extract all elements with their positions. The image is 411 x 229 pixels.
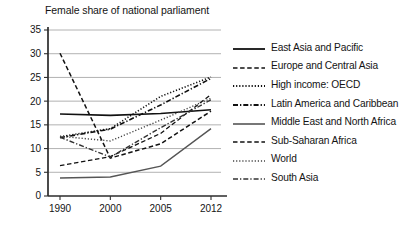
y-axis-tick-label: 10: [30, 143, 42, 154]
x-axis-tick-label: 2000: [99, 203, 122, 214]
legend-item[interactable]: World: [233, 150, 411, 169]
legend-item-label: Middle East and North Africa: [271, 116, 396, 127]
y-axis-tick-label: 0: [35, 190, 41, 201]
y-axis-tick-label: 35: [30, 24, 42, 35]
legend-item-label: Latin America and Caribbean: [271, 98, 398, 109]
chart-container: Female share of national parliament 0510…: [0, 0, 411, 229]
chart-series-line: [60, 78, 211, 137]
legend-item[interactable]: Latin America and Caribbean: [233, 94, 411, 113]
y-axis-tick-label: 5: [35, 167, 41, 178]
legend-item[interactable]: South Asia: [233, 168, 411, 187]
legend-item-label: South Asia: [271, 172, 318, 183]
legend-item[interactable]: High income: OECD: [233, 75, 411, 94]
legend-item[interactable]: Sub-Saharan Africa: [233, 131, 411, 150]
legend-item-label: Europe and Central Asia: [271, 60, 378, 71]
legend-line-swatch: [233, 153, 265, 165]
y-axis-tick-label: 20: [30, 96, 42, 107]
legend-item-label: High income: OECD: [271, 79, 360, 90]
legend-item-label: East Asia and Pacific: [271, 42, 363, 53]
legend-line-swatch: [233, 97, 265, 109]
x-axis-tick-label: 2012: [200, 203, 223, 214]
legend-item[interactable]: East Asia and Pacific: [233, 38, 411, 57]
legend-line-swatch: [233, 134, 265, 146]
y-axis-tick-label: 25: [30, 72, 42, 83]
x-axis-tick-label: 1990: [49, 203, 72, 214]
legend-item-label: Sub-Saharan Africa: [271, 135, 357, 146]
legend-line-swatch: [233, 41, 265, 53]
legend-item[interactable]: Middle East and North Africa: [233, 112, 411, 131]
legend-item-label: World: [271, 153, 297, 164]
chart-series-line: [60, 129, 211, 178]
y-axis-tick-label: 15: [30, 119, 42, 130]
chart-legend: East Asia and PacificEurope and Central …: [233, 38, 411, 187]
y-axis-tick-label: 30: [30, 48, 42, 59]
legend-line-swatch: [233, 60, 265, 72]
x-axis-tick-label: 2005: [150, 203, 173, 214]
legend-line-swatch: [233, 78, 265, 90]
legend-line-swatch: [233, 116, 265, 128]
chart-series-line: [60, 77, 211, 137]
legend-line-swatch: [233, 171, 265, 183]
legend-item[interactable]: Europe and Central Asia: [233, 57, 411, 76]
